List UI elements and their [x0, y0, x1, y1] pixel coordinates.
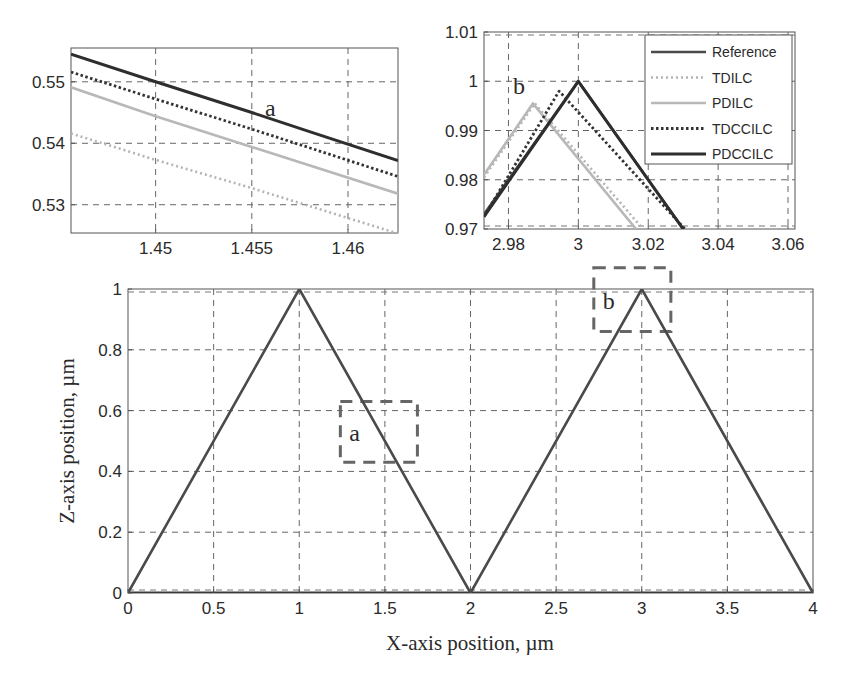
- x-tick-label: 2.5: [544, 599, 568, 618]
- y-tick-label: 0.2: [98, 523, 122, 542]
- legend-label-reference: Reference: [712, 44, 777, 60]
- zoom-box-letter-b: b: [603, 288, 615, 314]
- legend-label-pdilc: PDILC: [712, 95, 753, 111]
- y-tick-label: 1: [113, 280, 122, 299]
- x-tick-label: 1.46: [331, 239, 364, 258]
- y-tick-label: 0.99: [445, 122, 478, 141]
- inset-a-letter: a: [265, 95, 276, 121]
- x-tick-label: 3.5: [716, 599, 740, 618]
- inset-b-letter: b: [513, 73, 525, 99]
- y-tick-label: 0.53: [32, 196, 65, 215]
- figure: 1.451.4551.460.530.540.55 a 2.9833.023.0…: [0, 0, 847, 678]
- main-plot: ab 00.511.522.533.5400.20.40.60.81 X-axi…: [55, 268, 818, 655]
- y-tick-label: 1.01: [445, 23, 478, 42]
- x-tick-label: 3.06: [771, 235, 804, 254]
- x-tick-label: 3.04: [702, 235, 735, 254]
- x-tick-label: 1: [295, 599, 304, 618]
- y-tick-label: 0.54: [32, 134, 65, 153]
- y-tick-label: 0.8: [98, 341, 122, 360]
- legend-label-tdccilc: TDCCILC: [712, 121, 773, 137]
- x-tick-label: 1.5: [373, 599, 397, 618]
- y-tick-label: 0.6: [98, 402, 122, 421]
- y-tick-label: 0.97: [445, 220, 478, 239]
- x-axis-title: X-axis position, µm: [386, 631, 554, 655]
- x-tick-label: 3.02: [632, 235, 665, 254]
- x-tick-label: 1.455: [231, 239, 274, 258]
- y-tick-label: 0.98: [445, 171, 478, 190]
- inset-b-plot: 2.9833.023.043.060.970.980.9911.01 b Ref…: [445, 23, 805, 254]
- x-tick-label: 3: [574, 235, 583, 254]
- y-tick-label: 0.4: [98, 462, 122, 481]
- y-axis-title: Z-axis position, µm: [55, 358, 79, 524]
- y-tick-label: 1: [469, 72, 478, 91]
- inset-a-plot: 1.451.4551.460.530.540.55 a: [32, 48, 398, 258]
- zoom-box-letter-a: a: [349, 420, 360, 446]
- x-tick-label: 2: [466, 599, 475, 618]
- x-tick-label: 4: [808, 599, 817, 618]
- legend-label-tdilc: TDILC: [712, 70, 752, 86]
- legend: ReferenceTDILCPDILCTDCCILCPDCCILC: [645, 35, 792, 164]
- x-tick-label: 2.98: [492, 235, 525, 254]
- y-tick-label: 0.55: [32, 73, 65, 92]
- x-tick-label: 0.5: [202, 599, 226, 618]
- y-tick-label: 0: [113, 584, 122, 603]
- legend-label-pdccilc: PDCCILC: [712, 146, 773, 162]
- x-tick-label: 0: [123, 599, 132, 618]
- x-tick-label: 1.45: [139, 239, 172, 258]
- x-tick-label: 3: [637, 599, 646, 618]
